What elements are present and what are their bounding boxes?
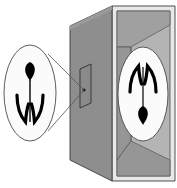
image-ellipse-group <box>118 47 168 141</box>
pinhole-aperture <box>80 64 91 108</box>
pinhole-camera-figure <box>0 0 177 188</box>
aperture-slit <box>80 64 91 108</box>
object-ellipse-group <box>4 45 56 141</box>
diagram-canvas <box>0 0 177 188</box>
